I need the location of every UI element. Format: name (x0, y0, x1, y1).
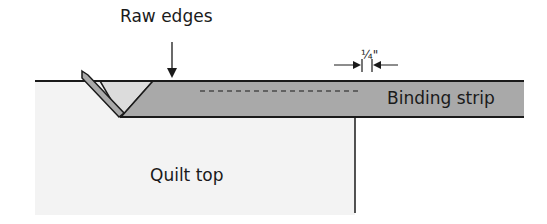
arrow-right-icon (353, 61, 361, 69)
binding-diagram: Raw edges ¼" Binding strip Quilt top (0, 0, 547, 224)
quarter-inch-label: ¼" (361, 48, 378, 62)
binding-strip-label: Binding strip (387, 88, 495, 108)
arrow-down-icon (167, 68, 177, 78)
diagram-graphic (0, 0, 547, 224)
arrow-left-icon (373, 61, 381, 69)
quilt-top-label: Quilt top (150, 165, 224, 185)
raw-edges-label: Raw edges (120, 6, 213, 26)
